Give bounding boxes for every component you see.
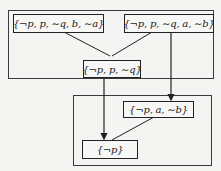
edge-b-to-c [112, 32, 152, 56]
node-a-label: {¬p, p, ∼q, b, ∼a} [13, 18, 104, 29]
node-c-label: {¬p, p, ∼q} [82, 64, 141, 75]
edge-a-to-c [64, 32, 110, 56]
edge-d-to-e [112, 117, 154, 140]
node-b: {¬p, p, ∼q, a, ∼b} [124, 14, 214, 33]
node-d-label: {¬p, a, ∼b} [129, 104, 188, 115]
node-c: {¬p, p, ∼q} [83, 60, 141, 78]
node-d: {¬p, a, ∼b} [123, 101, 194, 118]
node-e: {¬p} [82, 140, 138, 159]
node-e-label: {¬p} [97, 144, 124, 155]
node-b-label: {¬p, p, ∼q, a, ∼b} [123, 18, 214, 29]
node-a: {¬p, p, ∼q, b, ∼a} [13, 14, 104, 33]
